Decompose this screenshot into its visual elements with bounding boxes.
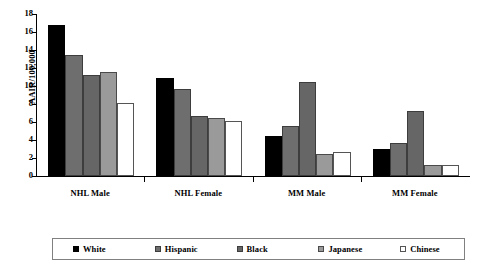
legend-entry: Japanese (300, 244, 382, 254)
legend-entry: White (53, 244, 137, 254)
bar (282, 126, 299, 176)
bar (442, 165, 459, 176)
bar (191, 116, 208, 176)
chart-legend: WhiteHispanicBlackJapaneseChinese (52, 238, 465, 260)
bar (390, 143, 407, 176)
y-tick-label: 12 (25, 62, 34, 73)
legend-label: Hispanic (165, 244, 198, 254)
bar (407, 111, 424, 176)
x-tick-mark (253, 177, 254, 182)
legend-entry: Hispanic (137, 244, 219, 254)
legend-swatch-icon (73, 246, 79, 252)
y-tick-label: 2 (29, 152, 33, 163)
x-category-label: MM Male (253, 188, 361, 198)
legend-swatch-icon (400, 246, 406, 252)
bar (299, 82, 316, 176)
x-category-label: MM Female (361, 188, 469, 198)
x-category-label: NHL Male (36, 188, 144, 198)
bar (373, 149, 390, 176)
y-tick-label: 8 (29, 98, 33, 109)
bar (333, 152, 350, 176)
legend-entry: Black (219, 244, 301, 254)
legend-entry: Chinese (382, 244, 464, 254)
bar (100, 72, 117, 176)
y-tick-label: 6 (29, 116, 33, 127)
bar (174, 89, 191, 176)
y-tick-label: 18 (25, 8, 34, 19)
bar (424, 165, 441, 176)
legend-label: Black (247, 244, 268, 254)
plot-area: AAIR/100,000 024681012141618 NHL MaleNHL… (36, 14, 470, 176)
y-tick-label: 10 (25, 80, 34, 91)
bar (83, 75, 100, 176)
bar (48, 25, 65, 176)
bars-layer (37, 14, 470, 176)
legend-swatch-icon (237, 246, 243, 252)
legend-swatch-icon (155, 246, 161, 252)
legend-entries: WhiteHispanicBlackJapaneseChinese (53, 239, 464, 259)
bar (265, 136, 282, 177)
x-category-label: NHL Female (144, 188, 252, 198)
bar-chart-figure: AAIR/100,000 024681012141618 NHL MaleNHL… (0, 0, 485, 275)
y-tick-label: 4 (29, 134, 33, 145)
legend-label: Chinese (410, 244, 440, 254)
bar (316, 154, 333, 177)
x-tick-mark (361, 177, 362, 182)
legend-swatch-icon (318, 246, 324, 252)
bar (225, 121, 242, 176)
x-tick-mark (144, 177, 145, 182)
bar (156, 78, 173, 176)
y-tick-label: 16 (25, 26, 34, 37)
bar (208, 118, 225, 176)
bar (117, 103, 134, 176)
bar (65, 55, 82, 177)
legend-label: White (83, 244, 106, 254)
legend-label: Japanese (328, 244, 362, 254)
y-tick-label: 14 (25, 44, 34, 55)
y-tick-label: 0 (29, 170, 33, 181)
